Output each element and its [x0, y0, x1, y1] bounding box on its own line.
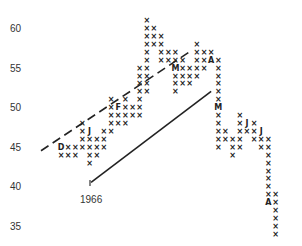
x-mark: × [215, 127, 222, 136]
x-mark: × [93, 135, 100, 144]
x-mark: × [143, 32, 150, 41]
x-mark: × [272, 214, 279, 223]
x-mark: × [179, 79, 186, 88]
x-mark: × [136, 87, 143, 96]
x-mark: × [136, 64, 143, 73]
x-mark: × [143, 64, 150, 73]
x-mark: × [193, 72, 200, 81]
x-mark: × [108, 103, 115, 112]
x-mark: × [215, 72, 222, 81]
x-mark: × [229, 143, 236, 152]
x-mark: × [258, 135, 265, 144]
x-mark: × [86, 159, 93, 168]
y-axis-labels: 605550454035 [10, 23, 22, 232]
x-mark: × [215, 79, 222, 88]
x-mark: × [108, 119, 115, 128]
x-mark: × [193, 56, 200, 65]
x-mark: × [122, 119, 129, 128]
x-mark: × [108, 127, 115, 136]
x-mark: × [229, 135, 236, 144]
month-marker: F [115, 103, 120, 112]
x-mark: × [172, 72, 179, 81]
x-mark: × [136, 103, 143, 112]
x-mark: × [186, 64, 193, 73]
x-mark: × [165, 48, 172, 57]
x-mark: × [186, 72, 193, 81]
x-mark: × [143, 72, 150, 81]
x-mark: × [265, 135, 272, 144]
x-mark: × [172, 79, 179, 88]
x-mark: × [215, 143, 222, 152]
x-mark: × [158, 32, 165, 41]
x-mark: × [86, 135, 93, 144]
x-mark: × [201, 56, 208, 65]
x-mark: × [229, 151, 236, 160]
x-mark: × [158, 40, 165, 49]
x-mark: × [151, 40, 158, 49]
x-mark: × [186, 79, 193, 88]
x-mark: × [272, 222, 279, 231]
x-mark: × [136, 95, 143, 104]
y-tick-label: 60 [10, 23, 22, 34]
x-mark: × [193, 48, 200, 57]
x-mark: × [215, 111, 222, 120]
x-mark: × [122, 95, 129, 104]
x-mark: × [172, 56, 179, 65]
x-mark: × [136, 79, 143, 88]
x-mark: × [215, 87, 222, 96]
x-mark: × [86, 151, 93, 160]
x-mark: × [265, 174, 272, 183]
y-tick-label: 55 [10, 63, 22, 74]
x-mark: × [251, 127, 258, 136]
month-marker: D [58, 143, 65, 152]
x-mark: × [251, 135, 258, 144]
plot-marks: ×D××××××××××××J×××××××××××××F×××××××××××… [58, 16, 279, 239]
x-mark: × [101, 135, 108, 144]
x-mark: × [143, 24, 150, 33]
point-and-figure-chart: 605550454035 ×D××××××××××××J××××××××××××… [0, 0, 302, 246]
x-mark: × [193, 40, 200, 49]
x-mark: × [272, 230, 279, 239]
y-tick-label: 40 [10, 181, 22, 192]
dashed-trendline [41, 52, 190, 151]
x-mark: × [129, 111, 136, 120]
x-mark: × [93, 143, 100, 152]
year-label: 1966 [80, 194, 103, 205]
x-mark: × [265, 159, 272, 168]
x-mark: × [143, 40, 150, 49]
x-mark: × [215, 95, 222, 104]
x-mark: × [236, 127, 243, 136]
x-mark: × [208, 48, 215, 57]
x-mark: × [215, 135, 222, 144]
annotations: 1966 [80, 180, 103, 205]
x-mark: × [122, 103, 129, 112]
x-mark: × [79, 127, 86, 136]
x-mark: × [236, 111, 243, 120]
x-mark: × [222, 135, 229, 144]
x-mark: × [108, 95, 115, 104]
x-mark: × [136, 72, 143, 81]
x-mark: × [272, 198, 279, 207]
x-mark: × [122, 111, 129, 120]
x-mark: × [201, 48, 208, 57]
x-mark: × [236, 143, 243, 152]
x-mark: × [143, 87, 150, 96]
month-marker: J [244, 119, 248, 128]
y-tick-label: 45 [10, 142, 22, 153]
month-marker: M [214, 103, 222, 112]
x-mark: × [72, 143, 79, 152]
x-mark: × [215, 64, 222, 73]
x-mark: × [272, 206, 279, 215]
x-mark: × [272, 190, 279, 199]
y-tick-label: 50 [10, 102, 22, 113]
x-mark: × [86, 143, 93, 152]
x-mark: × [201, 64, 208, 73]
x-mark: × [265, 190, 272, 199]
x-mark: × [115, 119, 122, 128]
x-mark: × [179, 72, 186, 81]
x-mark: × [179, 64, 186, 73]
x-mark: × [101, 127, 108, 136]
x-mark: × [115, 111, 122, 120]
x-mark: × [251, 119, 258, 128]
x-mark: × [179, 56, 186, 65]
